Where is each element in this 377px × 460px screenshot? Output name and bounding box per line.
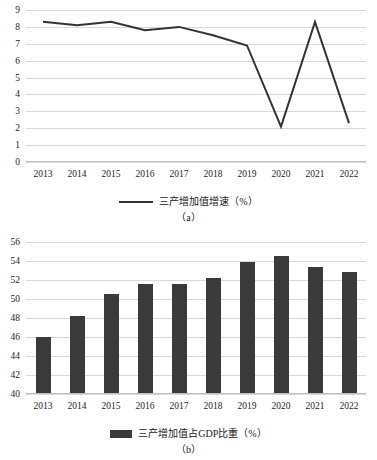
figure-b-bar-chart: 404244464850525456 201320142015201620172… <box>0 230 377 460</box>
x-axis-tick-label: 2018 <box>196 166 230 182</box>
figure-a-x-axis-labels: 2013201420152016201720182019202020212022 <box>26 166 366 182</box>
x-axis-tick-label: 2022 <box>332 166 366 182</box>
bar-cell <box>230 242 264 394</box>
legend-label: 三产增加值占GDP比重（%） <box>138 428 266 440</box>
bar-cell <box>26 242 60 394</box>
y-axis-tick-label: 42 <box>11 370 21 380</box>
x-axis-tick-label: 2022 <box>332 398 366 414</box>
bar-cell <box>128 242 162 394</box>
figure-a-line-chart: 0123456789 20132014201520162017201820192… <box>0 0 377 230</box>
bar <box>240 262 255 394</box>
figure-b-legend: 三产增加值占GDP比重（%） <box>0 428 377 440</box>
bar <box>36 337 51 394</box>
y-axis-tick-label: 56 <box>11 237 21 247</box>
bar <box>104 294 119 394</box>
y-axis-tick-label: 52 <box>11 275 21 285</box>
y-axis-tick-label: 54 <box>11 256 21 266</box>
bar <box>206 278 221 394</box>
y-axis-tick-label: 40 <box>11 389 21 399</box>
bar-cell <box>298 242 332 394</box>
x-axis-tick-label: 2018 <box>196 398 230 414</box>
bar-cell <box>332 242 366 394</box>
figure-a-legend: 三产增加值增速（%） <box>0 196 377 208</box>
x-axis-tick-label: 2014 <box>60 398 94 414</box>
bar-cell <box>264 242 298 394</box>
bar-cell <box>196 242 230 394</box>
figure-b-x-axis-line <box>26 393 366 394</box>
figure-a-line-series <box>26 10 366 162</box>
y-axis-tick-label: 8 <box>15 22 20 32</box>
x-axis-tick-label: 2019 <box>230 398 264 414</box>
bar <box>274 256 289 394</box>
x-axis-tick-label: 2016 <box>128 166 162 182</box>
figure-b-x-axis-labels: 2013201420152016201720182019202020212022 <box>26 398 366 414</box>
y-axis-tick-label: 48 <box>11 313 21 323</box>
x-axis-tick-label: 2016 <box>128 398 162 414</box>
series-polyline <box>43 22 349 127</box>
y-axis-tick-label: 2 <box>15 123 20 133</box>
bar <box>308 267 323 394</box>
x-axis-tick-label: 2013 <box>26 398 60 414</box>
y-axis-tick-label: 4 <box>15 89 20 99</box>
bar-cell <box>94 242 128 394</box>
legend-square-marker-icon <box>110 430 132 438</box>
bar <box>342 272 357 394</box>
x-axis-tick-label: 2021 <box>298 166 332 182</box>
gridline <box>26 394 366 395</box>
y-axis-tick-label: 1 <box>15 140 20 150</box>
x-axis-tick-label: 2020 <box>264 166 298 182</box>
y-axis-tick-label: 46 <box>11 332 21 342</box>
x-axis-tick-label: 2019 <box>230 166 264 182</box>
bar <box>70 316 85 394</box>
y-axis-tick-label: 50 <box>11 294 21 304</box>
figure-a-plot-area <box>26 10 366 162</box>
y-axis-tick-label: 5 <box>15 73 20 83</box>
y-axis-tick-label: 3 <box>15 106 20 116</box>
legend-line-marker-icon <box>119 201 153 203</box>
y-axis-tick-label: 9 <box>15 5 20 15</box>
bar <box>172 284 187 394</box>
x-axis-tick-label: 2017 <box>162 166 196 182</box>
figure-b-bar-series <box>26 242 366 394</box>
x-axis-tick-label: 2013 <box>26 166 60 182</box>
y-axis-tick-label: 0 <box>15 157 20 167</box>
figure-b-y-axis-labels: 404244464850525456 <box>0 242 24 394</box>
legend-label: 三产增加值增速（%） <box>159 196 257 208</box>
y-axis-tick-label: 44 <box>11 351 21 361</box>
figure-a-x-axis-line <box>26 161 366 162</box>
x-axis-tick-label: 2015 <box>94 398 128 414</box>
bar-cell <box>60 242 94 394</box>
x-axis-tick-label: 2020 <box>264 398 298 414</box>
x-axis-tick-label: 2014 <box>60 166 94 182</box>
y-axis-tick-label: 6 <box>15 56 20 66</box>
gridline <box>26 162 366 163</box>
bar-cell <box>162 242 196 394</box>
x-axis-tick-label: 2021 <box>298 398 332 414</box>
figure-a-y-axis-labels: 0123456789 <box>0 10 24 162</box>
x-axis-tick-label: 2017 <box>162 398 196 414</box>
figure-a-caption: （a） <box>0 212 377 224</box>
figure-b-caption: （b） <box>0 444 377 456</box>
bar <box>138 284 153 394</box>
figure-b-plot-area <box>26 242 366 394</box>
y-axis-tick-label: 7 <box>15 39 20 49</box>
x-axis-tick-label: 2015 <box>94 166 128 182</box>
